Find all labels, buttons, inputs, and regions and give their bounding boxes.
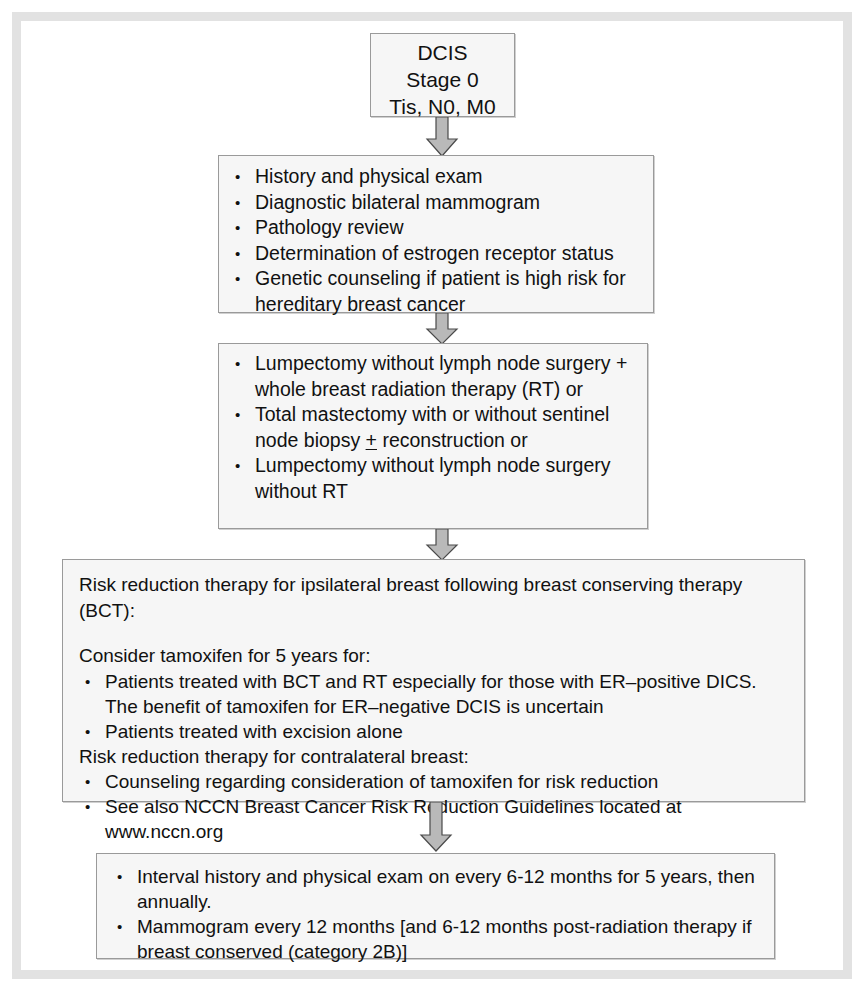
plus-minus-icon: + [366, 429, 377, 451]
arrow-workup-to-treatment [424, 313, 460, 345]
list-item: Interval history and physical exam on ev… [111, 864, 760, 914]
surveillance-bullet-list: Interval history and physical exam on ev… [111, 864, 760, 964]
workup-bullet-list: History and physical exam Diagnostic bil… [229, 164, 643, 317]
list-item: Patients treated with excision alone [79, 719, 790, 744]
diagnosis-line-3: Tis, N0, M0 [381, 93, 504, 120]
arrow-diagnosis-to-workup [424, 117, 460, 157]
list-item: Patients treated with BCT and RT especia… [79, 669, 790, 719]
risk-reduction-subheading: Consider tamoxifen for 5 years for: [79, 643, 790, 669]
diagnosis-line-1: DCIS [381, 39, 504, 66]
primary-treatment-box: Lumpectomy without lymph node surgery + … [218, 343, 648, 529]
scanned-page: DCIS Stage 0 Tis, N0, M0 History and phy… [0, 0, 868, 997]
list-item: History and physical exam [229, 164, 643, 190]
treatment-text-2b: reconstruction or [377, 429, 528, 451]
treatment-text-3a: Lumpectomy without lymph node surgery wi… [255, 454, 611, 502]
list-item: Mammogram every 12 months [and 6-12 mont… [111, 914, 760, 964]
list-item: Total mastectomy with or without sentine… [229, 402, 637, 453]
list-item: Pathology review [229, 215, 643, 241]
arrow-risk-reduction-to-surveillance [418, 802, 454, 852]
risk-reduction-contralateral-heading: Risk reduction therapy for contralateral… [79, 744, 790, 770]
list-item: Determination of estrogen receptor statu… [229, 241, 643, 267]
diagnosis-line-2: Stage 0 [381, 66, 504, 93]
treatment-text-1a: Lumpectomy without lymph node surgery + … [255, 352, 627, 400]
treatment-bullet-list: Lumpectomy without lymph node surgery + … [229, 351, 637, 504]
arrow-treatment-to-risk-reduction [424, 529, 460, 561]
list-item: Genetic counseling if patient is high ri… [229, 266, 643, 317]
risk-reduction-heading: Risk reduction therapy for ipsilateral b… [79, 572, 790, 623]
risk-reduction-box: Risk reduction therapy for ipsilateral b… [62, 559, 805, 802]
diagnosis-box: DCIS Stage 0 Tis, N0, M0 [370, 33, 515, 117]
surveillance-box: Interval history and physical exam on ev… [96, 853, 775, 959]
list-item: Diagnostic bilateral mammogram [229, 190, 643, 216]
list-item: Lumpectomy without lymph node surgery wi… [229, 453, 637, 504]
list-item: Counseling regarding consideration of ta… [79, 769, 790, 794]
risk-reduction-ipsilateral-list: Patients treated with BCT and RT especia… [79, 669, 790, 744]
list-item: Lumpectomy without lymph node surgery + … [229, 351, 637, 402]
workup-box: History and physical exam Diagnostic bil… [218, 155, 654, 313]
